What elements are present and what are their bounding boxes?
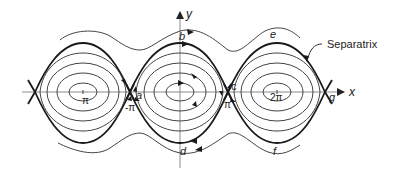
arrow-down-icon: [191, 73, 197, 79]
arrow-down-icon: [121, 79, 126, 85]
point-label-a: a: [136, 89, 142, 101]
separatrix-leader-line: [308, 44, 322, 58]
point-label-d: d: [180, 145, 187, 157]
tick-label-neg-pi: -π: [125, 102, 135, 113]
arrow-down-icon: [192, 101, 197, 107]
point-label-c: c: [231, 80, 237, 92]
tick-label-two-pi: 2π: [270, 92, 283, 103]
arrow-right-icon: [178, 80, 184, 86]
phase-portrait-diagram: y x π -π π 2π a b c d e f g Separatrix: [0, 0, 398, 174]
tick-label-pi-left: π: [82, 95, 89, 106]
tick-label-pi-right: π: [224, 99, 231, 110]
point-label-b: b: [179, 30, 185, 42]
y-axis-label: y: [185, 7, 193, 21]
point-label-g: g: [329, 91, 336, 103]
point-label-e: e: [270, 28, 276, 40]
x-axis-label: x: [348, 85, 356, 99]
point-label-f: f: [273, 145, 277, 157]
separatrix-annotation: Separatrix: [327, 38, 378, 50]
